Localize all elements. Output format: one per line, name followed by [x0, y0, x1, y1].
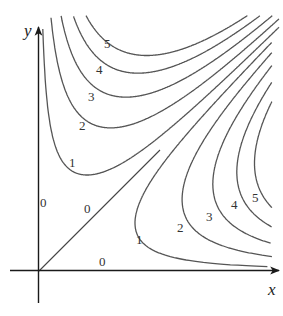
x-axis-label: x [267, 280, 276, 299]
lower-level-3-label: 3 [206, 209, 213, 224]
lower-level-curve-3 [213, 66, 272, 244]
upper-level-1-label: 1 [69, 155, 76, 170]
upper-level-curve-1 [43, 27, 279, 175]
zero-label-y-axis: 0 [40, 195, 47, 210]
lower-level-5-label: 5 [252, 190, 259, 205]
zero-label-x-axis: 0 [99, 254, 106, 269]
zero-label-diagonal: 0 [84, 201, 91, 216]
upper-level-4-label: 4 [96, 62, 103, 77]
upper-level-5-label: 5 [104, 36, 111, 51]
upper-level-3-label: 3 [88, 89, 95, 104]
upper-level-2-label: 2 [79, 118, 86, 133]
upper-level-curve-2 [51, 18, 279, 128]
zero-contour-diagonal [39, 150, 160, 271]
lower-level-4-label: 4 [231, 197, 238, 212]
contour-plot: y x 0 0 0 1 2 3 4 5 1 2 3 4 5 [0, 0, 283, 316]
lower-level-2-label: 2 [177, 220, 184, 235]
lower-level-1-label: 1 [136, 232, 143, 247]
upper-left-level-curves [43, 16, 279, 175]
y-axis-label: y [22, 21, 32, 40]
lower-level-curve-4 [237, 82, 272, 226]
